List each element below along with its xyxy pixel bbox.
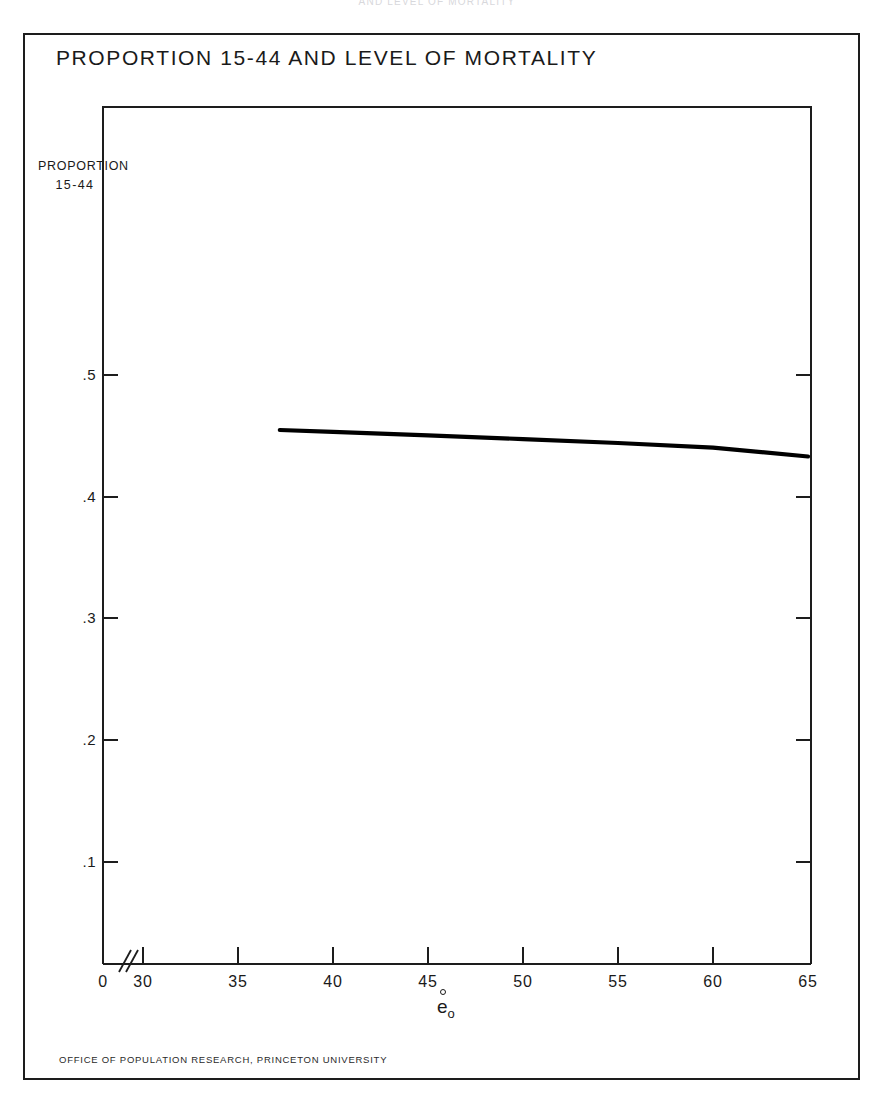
ring-diacritic-icon — [440, 989, 446, 995]
x-tick-label-6: 55 — [595, 973, 641, 991]
x-axis-label-subscript: o — [448, 1006, 455, 1021]
page-title: PROPORTION 15-44 AND LEVEL OF MORTALITY — [56, 46, 597, 70]
y-axis-label-line-1: PROPORTION — [38, 157, 112, 176]
x-tick-label-3: 40 — [310, 973, 356, 991]
y-axis-label: PROPORTION 15-44 — [38, 157, 112, 195]
x-tick-label-7: 60 — [690, 973, 736, 991]
y-tick-label-4: .1 — [50, 853, 96, 870]
x-tick-label-2: 35 — [215, 973, 261, 991]
y-tick-label-1: .4 — [50, 488, 96, 505]
plot-frame — [102, 106, 812, 964]
x-tick-label-8: 65 — [785, 973, 831, 991]
x-axis-label-base: e — [437, 996, 448, 1018]
running-head: AND LEVEL OF MORTALITY — [0, 0, 874, 5]
footer-credit: OFFICE OF POPULATION RESEARCH, PRINCETON… — [59, 1054, 387, 1065]
y-axis-label-line-2: 15-44 — [38, 176, 112, 195]
y-tick-label-0: .5 — [50, 366, 96, 383]
x-axis-label: eo — [437, 996, 455, 1018]
x-tick-label-5: 50 — [500, 973, 546, 991]
x-axis-label-letter: e — [437, 996, 448, 1017]
y-tick-label-3: .2 — [50, 731, 96, 748]
y-tick-label-2: .3 — [50, 609, 96, 626]
x-tick-label-1: 30 — [120, 973, 166, 991]
